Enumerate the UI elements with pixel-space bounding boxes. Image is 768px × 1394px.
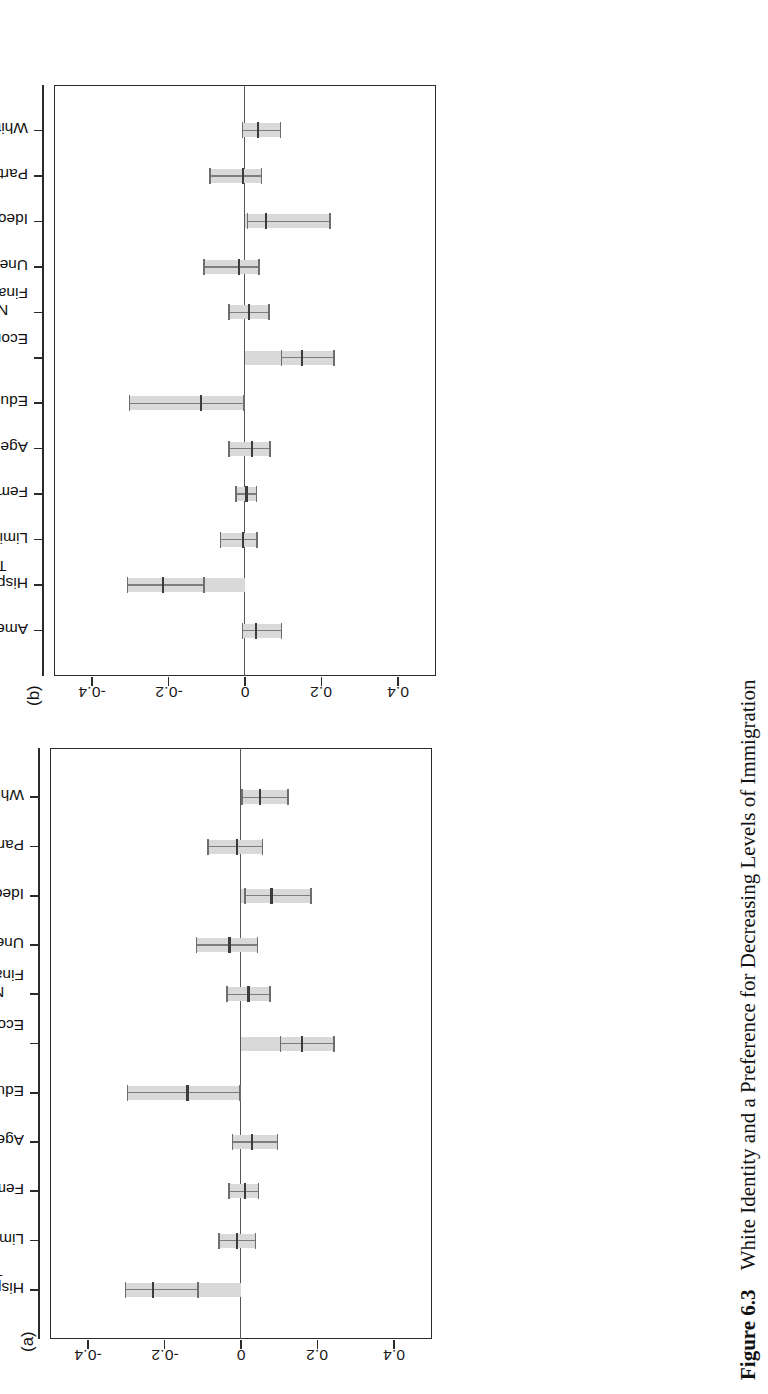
figure-caption-text: White Identity and a Preference for Decr… — [736, 680, 760, 1271]
category-label-line: Thermometer — [0, 1262, 24, 1279]
ci-lower-cap — [242, 122, 244, 138]
confidence-interval-line — [248, 221, 331, 222]
value-axis-label: 0 — [241, 683, 250, 701]
point-estimate — [251, 1134, 253, 1150]
ci-lower-cap — [232, 1134, 234, 1150]
ci-upper-cap — [258, 1183, 260, 1199]
ci-upper-cap — [333, 1036, 335, 1052]
category-tick — [30, 1092, 39, 1094]
category-label: Unemployed — [0, 935, 24, 952]
category-label: Ideology — [0, 211, 28, 228]
point-estimate — [244, 1183, 246, 1199]
category-tick — [30, 1190, 39, 1192]
value-axis-label: 0.2 — [310, 683, 332, 701]
ci-upper-cap — [269, 441, 271, 457]
category-tick — [30, 796, 39, 798]
category-label-line: Limited Government — [0, 529, 28, 546]
ci-lower-cap — [129, 395, 131, 411]
ci-upper-cap — [280, 122, 282, 138]
panel-b-letter: (b) — [24, 685, 44, 706]
category-tick — [30, 895, 39, 897]
confidence-interval-line — [205, 266, 260, 267]
ci-upper-cap — [197, 1282, 199, 1298]
category-label-line: White Identity — [0, 120, 28, 137]
value-axis-label: 0.4 — [387, 683, 409, 701]
ci-upper-cap — [261, 168, 263, 184]
ci-upper-cap — [281, 623, 283, 639]
ci-lower-cap — [226, 986, 228, 1002]
ci-upper-cap — [203, 577, 205, 593]
point-estimate — [255, 623, 257, 639]
category-label-line: Financial Evaluations — [0, 285, 28, 302]
ci-lower-cap — [235, 486, 237, 502]
point-estimate — [251, 441, 253, 457]
category-label-line: Education — [0, 393, 28, 410]
ci-upper-cap — [257, 937, 259, 953]
coefficient-plot: White IdentityParty IdentityIdeologyUnem… — [0, 748, 432, 1348]
category-label: Age — [0, 1132, 24, 1149]
category-tick — [34, 584, 43, 586]
category-label-line: White Identity — [0, 787, 24, 804]
category-label-line: Economic Evaluations — [0, 1016, 24, 1033]
ci-upper-cap — [258, 259, 260, 275]
point-estimate — [257, 122, 259, 138]
category-label-line: Economic Evaluations — [0, 330, 28, 347]
figure-caption-label: Figure 6.3 — [736, 1289, 760, 1380]
category-label: Negative PersonalFinancial Evaluations — [0, 285, 28, 320]
point-estimate — [162, 577, 164, 593]
ci-upper-cap — [333, 350, 335, 366]
category-label-line: Thermometer — [0, 557, 28, 574]
category-label-line: American Identity — [0, 620, 28, 637]
category-label-line: Hispanic Feeling — [0, 1279, 24, 1296]
panel-b-container: White IdentityParty IdentityIdeologyUnem… — [0, 85, 436, 685]
category-tick — [34, 130, 43, 132]
ci-lower-cap — [241, 789, 243, 805]
point-estimate — [247, 986, 249, 1002]
category-label-line: Ideology — [0, 211, 28, 228]
value-axis-label: -0.4 — [74, 1346, 102, 1364]
confidence-interval-line — [282, 357, 334, 358]
point-estimate — [245, 486, 247, 502]
ci-upper-cap — [329, 213, 331, 229]
category-tick — [30, 1141, 39, 1143]
ci-upper-cap — [262, 839, 264, 855]
ci-lower-cap — [247, 213, 249, 229]
category-label-line: Negative Personal — [0, 302, 28, 319]
ci-upper-cap — [287, 789, 289, 805]
category-tick — [34, 221, 43, 223]
category-label-line: Age — [0, 438, 28, 455]
category-label-line: Female — [0, 1181, 24, 1198]
panel-a-container: White IdentityParty IdentityIdeologyUnem… — [0, 748, 432, 1348]
point-estimate — [301, 1036, 303, 1052]
ci-upper-cap — [244, 395, 246, 411]
value-axis-label: 0 — [237, 1346, 246, 1364]
category-label-line: Age — [0, 1132, 24, 1149]
confidence-interval-line — [211, 175, 263, 176]
ci-upper-cap — [256, 486, 258, 502]
category-tick — [30, 944, 39, 946]
figure-caption: Figure 6.3 White Identity and a Preferen… — [736, 680, 761, 1380]
confidence-interval-line — [221, 539, 258, 540]
category-label-line: Negative Personal — [0, 984, 24, 1001]
category-label: Negative PersonalFinancial Evaluations — [0, 967, 24, 1002]
category-label: Education — [0, 393, 28, 410]
ci-lower-cap — [228, 304, 230, 320]
point-estimate — [242, 168, 244, 184]
ci-lower-cap — [127, 1085, 129, 1101]
point-estimate — [186, 1085, 188, 1101]
category-label-line: Party Identity — [0, 166, 28, 183]
confidence-interval-line — [246, 895, 312, 896]
category-label-line: Hispanic Feeling — [0, 575, 28, 592]
ci-upper-cap — [255, 1233, 257, 1249]
value-axis-label: -0.2 — [151, 1346, 179, 1364]
point-estimate — [236, 1233, 238, 1249]
ci-lower-cap — [196, 937, 198, 953]
point-estimate — [248, 304, 250, 320]
confidence-interval-line — [130, 403, 245, 404]
point-estimate — [265, 213, 267, 229]
category-label: Negative NationalEconomic Evaluations — [0, 330, 28, 365]
confidence-interval-line — [281, 1043, 334, 1044]
category-label: Hispanic FeelingThermometer — [0, 1262, 24, 1297]
category-tick — [34, 175, 43, 177]
category-label-line: Negative National — [0, 347, 28, 364]
